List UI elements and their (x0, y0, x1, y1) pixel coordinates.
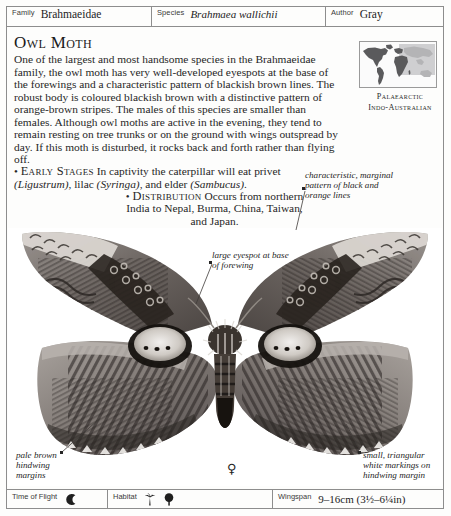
author-label: Author (331, 8, 354, 17)
wingspan-value: 9–16cm (3½–6¼in) (318, 493, 405, 505)
early-stages-text-3: , and elder (140, 178, 191, 190)
distribution-paragraph: • Distribution Occurs from northern Indi… (122, 190, 307, 227)
map-region-palaearctic: Palaearctic (354, 92, 446, 103)
time-of-flight-label: Time of Flight (12, 492, 57, 501)
distribution-map (359, 41, 437, 88)
early-stages-label: Early Stages (21, 164, 94, 178)
annotation-white-markings: small, triangular white markings on hind… (363, 450, 451, 481)
leader-line-pale-margin (62, 420, 100, 456)
distribution-label: Distribution (133, 189, 202, 203)
habitat-icon-group (144, 493, 175, 506)
sex-symbol-female: ♀ (227, 461, 237, 476)
early-stages-text-1: In captivity the caterpillar will eat pr… (97, 165, 281, 177)
description-paragraph: One of the largest and most handsome spe… (14, 53, 344, 166)
author-field: Author Gray (325, 7, 443, 26)
attributes-footer: Time of Flight Habitat (7, 489, 443, 508)
early-stages-genus-lilac: (Syringa) (97, 178, 140, 190)
field-guide-page: Family Brahmaeidae Species Brahmaea wall… (0, 0, 451, 516)
leader-dot-pale-margin (60, 451, 63, 454)
species-label: Species (157, 8, 184, 17)
leader-line-white-markings (346, 424, 362, 454)
palm-tree-icon (144, 493, 156, 506)
map-region-indo-australian: Indo-Australian (354, 103, 446, 114)
leader-line-marginal-pattern (296, 186, 342, 232)
early-stages-text-2: , lilac (68, 178, 96, 190)
family-value: Brahmaeidae (41, 8, 102, 20)
description-text: One of the largest and most handsome spe… (14, 53, 344, 166)
species-field: Species Brahmaea wallichii (151, 7, 325, 26)
crescent-moon-icon (66, 493, 77, 506)
species-value: Brahmaea wallichii (190, 8, 277, 20)
right-eyespot (258, 324, 322, 368)
broadleaf-tree-icon (163, 493, 175, 506)
leader-dot-eyespot (209, 261, 212, 264)
left-eyespot (128, 324, 192, 368)
habitat-field: Habitat (107, 490, 272, 508)
early-stages-paragraph: • Early Stages In captivity the caterpil… (14, 165, 314, 190)
annotation-eyespot: large eyespot at base of forewing (212, 250, 332, 270)
taxonomy-header: Family Brahmaeidae Species Brahmaea wall… (7, 7, 443, 27)
world-map-svg (360, 42, 436, 87)
wingspan-field: Wingspan 9–16cm (3½–6¼in) (272, 490, 443, 508)
page-title: Owl Moth (14, 33, 92, 53)
habitat-label: Habitat (113, 492, 137, 501)
family-label: Family (12, 8, 35, 17)
early-stages-genus-privet: (Ligustrum) (14, 178, 68, 190)
map-caption: Palaearctic Indo-Australian (354, 92, 446, 113)
leader-line-eyespot (196, 262, 222, 308)
distribution-bullet: • (126, 190, 130, 202)
early-stages-text-4: . (244, 178, 247, 190)
time-of-flight-field: Time of Flight (7, 490, 107, 508)
early-stages-bullet: • (14, 165, 18, 177)
family-field: Family Brahmaeidae (7, 7, 151, 26)
leader-dot-marginal-pattern (302, 187, 305, 190)
leader-dot-white-markings (358, 451, 361, 454)
wingspan-label: Wingspan (278, 492, 311, 501)
author-value: Gray (360, 8, 383, 20)
early-stages-genus-elder: (Sambucus) (190, 178, 244, 190)
